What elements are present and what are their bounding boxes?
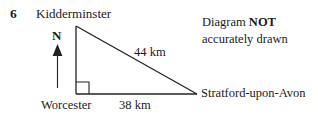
north-arrow-icon [53, 44, 63, 88]
right-angle-marker-icon [76, 82, 89, 94]
triangle-side-hypotenuse [76, 26, 197, 94]
figure-page: 6 Diagram NOT accurately drawn Kiddermin… [0, 0, 318, 119]
triangle-figure [0, 0, 318, 119]
triangle-outline [76, 26, 197, 94]
